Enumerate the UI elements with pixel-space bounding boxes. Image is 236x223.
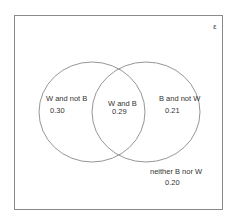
region-w-not-b-label: W and not B [46,94,87,103]
region-neither-label: neither B nor W [150,167,203,176]
region-neither-value: 0.20 [165,178,180,187]
region-b-not-w-label: B and not W [159,94,201,103]
universe-label: ε [213,22,217,31]
region-b-not-w-value: 0.21 [165,106,180,115]
region-w-and-b-value: 0.29 [112,107,127,116]
venn-diagram: ε W and not B 0.30 W and B 0.29 B and no… [0,0,236,223]
region-w-not-b-value: 0.30 [50,106,65,115]
set-b-circle [92,62,200,162]
